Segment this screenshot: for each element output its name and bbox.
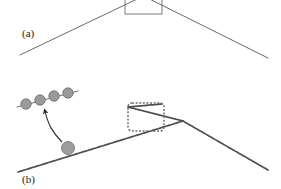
inset-bead <box>21 99 31 109</box>
figure-background <box>0 0 281 189</box>
inset-bead <box>49 91 59 101</box>
figure-canvas: (a) (b) <box>0 0 281 189</box>
figure-container: (a) (b) <box>0 0 281 189</box>
panel-b-label: (b) <box>22 173 35 186</box>
inset-bead <box>63 88 73 98</box>
highlighted-monomer <box>62 142 75 155</box>
panel-a-label: (a) <box>22 27 35 40</box>
inset-bead <box>35 95 45 105</box>
